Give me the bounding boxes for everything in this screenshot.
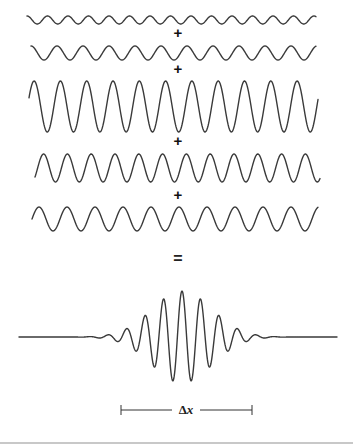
component-wave-2: [31, 46, 316, 60]
delta-x-bracket: Δx: [121, 402, 252, 417]
component-wave-5: [32, 207, 318, 231]
component-wave-3: [29, 81, 318, 132]
component-wave-4: [35, 154, 320, 182]
wave-superposition-diagram: + + + + = Δx: [0, 0, 353, 447]
plus-sign-4: +: [174, 186, 183, 203]
equals-sign: =: [173, 250, 182, 267]
wave-packet: [19, 291, 337, 381]
plus-sign-1: +: [174, 24, 183, 41]
plus-sign-3: +: [174, 132, 183, 149]
plus-sign-2: +: [174, 60, 183, 77]
delta-x-label: Δx: [179, 402, 194, 417]
component-wave-1: [27, 16, 316, 24]
